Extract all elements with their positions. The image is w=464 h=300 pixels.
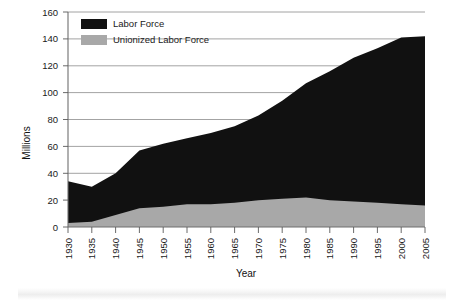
y-tick-label: 140 [42,33,58,44]
x-tick-label: 1985 [324,238,335,259]
y-tick-label: 0 [53,222,58,233]
x-tick-label: 1945 [134,238,145,259]
x-tick-label: 1950 [158,238,169,259]
y-axis-labels: 160 140 120 100 80 60 40 20 0 [42,7,58,233]
chart-figure: 160 140 120 100 80 60 40 20 0 Millions [0,0,464,300]
y-axis-title: Millions [21,126,32,159]
x-tick-label: 1935 [86,238,97,259]
y-tick-label: 40 [47,168,58,179]
x-tick-label: 1980 [301,238,312,259]
x-tick-label: 1940 [110,238,121,259]
y-tick-label: 160 [42,7,58,18]
x-axis-title: Year [236,268,257,279]
x-tick-label: 1965 [229,238,240,259]
x-tick-label: 1975 [277,238,288,259]
y-axis-ticks [63,12,68,227]
x-axis-labels: 1930 1935 1940 1945 1950 1955 1960 1965 … [63,238,431,259]
legend-swatch-labor-force [81,19,107,29]
x-tick-label: 1990 [348,238,359,259]
x-tick-label: 1960 [205,238,216,259]
x-tick-label: 1970 [253,238,264,259]
y-tick-label: 100 [42,87,58,98]
legend-label-unionized-labor-force: Unionized Labor Force [113,34,209,45]
x-tick-label: 1995 [372,238,383,259]
y-tick-label: 60 [47,141,58,152]
area-chart-svg: 160 140 120 100 80 60 40 20 0 Millions [0,0,464,300]
x-tick-label: 1955 [182,238,193,259]
x-tick-label: 1930 [63,238,74,259]
legend-swatch-unionized-labor-force [81,35,107,45]
y-tick-label: 80 [47,114,58,125]
legend-label-labor-force: Labor Force [113,18,164,29]
x-axis-ticks [68,227,425,233]
x-tick-label: 2000 [396,238,407,259]
y-tick-label: 20 [47,195,58,206]
y-tick-label: 120 [42,60,58,71]
x-tick-label: 2005 [420,238,431,259]
